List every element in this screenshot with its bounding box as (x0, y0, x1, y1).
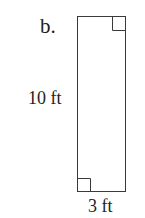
right-angle-marker-bottom-left (78, 179, 91, 192)
width-label: 3 ft (88, 196, 113, 217)
rectangle-figure (0, 0, 145, 218)
right-angle-marker-top-right (113, 17, 126, 31)
rectangle (78, 17, 126, 192)
height-label: 10 ft (28, 88, 62, 109)
